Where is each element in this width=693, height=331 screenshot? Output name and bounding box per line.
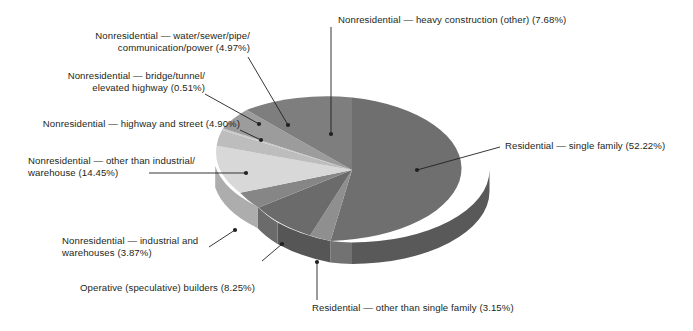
wall-residential-other	[331, 241, 353, 264]
label-other-than-industrial: Nonresidential — other than industrial/ …	[28, 155, 195, 179]
label-residential-single-family: Residential — single family (52.22%)	[505, 140, 665, 152]
pie-chart-figure: Nonresidential — heavy construction (oth…	[0, 0, 693, 331]
dot-heavy-construction	[329, 132, 333, 136]
dot-residential-single-family	[415, 168, 419, 172]
label-residential-other: Residential — other than single family (…	[312, 302, 514, 314]
dot-residential-other	[315, 260, 319, 264]
label-bridge-tunnel: Nonresidential — bridge/tunnel/ elevated…	[0, 70, 205, 94]
leader-operative-builders	[262, 244, 282, 261]
dot-other-than-industrial	[244, 171, 248, 175]
dot-highway-street	[259, 138, 263, 142]
dot-industrial-warehouses	[233, 228, 237, 232]
label-operative-builders: Operative (speculative) builders (8.25%)	[80, 282, 255, 294]
label-highway-street: Nonresidential — highway and street (4.9…	[0, 118, 240, 130]
dot-bridge-tunnel	[257, 122, 261, 126]
label-industrial-warehouses: Nonresidential — industrial and warehous…	[62, 235, 198, 259]
dot-water-sewer	[286, 123, 290, 127]
leader-industrial-warehouses	[209, 230, 235, 247]
label-heavy-construction: Nonresidential — heavy construction (oth…	[338, 14, 566, 26]
dot-operative-builders	[280, 242, 284, 246]
label-water-sewer-pipe: Nonresidential — water/sewer/pipe/ commu…	[0, 30, 250, 54]
